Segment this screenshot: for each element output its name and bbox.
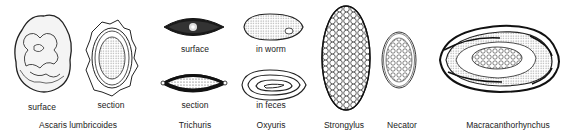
oxyuris-in-feces-label: in feces bbox=[256, 100, 285, 110]
macracanthorhynchus-drawing bbox=[440, 26, 559, 92]
egg-illustrations bbox=[0, 0, 570, 137]
oxyuris-in-worm-drawing bbox=[244, 14, 303, 40]
strongylus-drawing bbox=[320, 4, 374, 114]
ascaris-section-drawing bbox=[86, 20, 138, 96]
trichuris-name: Trichuris bbox=[179, 120, 211, 130]
necator-drawing bbox=[382, 32, 416, 88]
oxyuris-name: Oxyuris bbox=[257, 120, 286, 130]
oxyuris-in-worm-label: in worm bbox=[256, 44, 286, 54]
trichuris-section-drawing bbox=[161, 75, 227, 92]
ascaris-surface-label: surface bbox=[28, 102, 56, 112]
trichuris-surface-drawing bbox=[164, 19, 224, 36]
ascaris-name: Ascaris lumbricoides bbox=[39, 120, 117, 130]
macracanthorhynchus-name: Macracanthorhynchus bbox=[466, 120, 550, 130]
necator-name: Necator bbox=[387, 120, 417, 130]
ascaris-section-label: section bbox=[98, 100, 125, 110]
oxyuris-in-feces-drawing bbox=[242, 70, 306, 100]
trichuris-surface-label: surface bbox=[181, 44, 209, 54]
trichuris-section-label: section bbox=[182, 100, 209, 110]
strongylus-name: Strongylus bbox=[324, 120, 364, 130]
ascaris-surface-drawing bbox=[15, 15, 71, 92]
